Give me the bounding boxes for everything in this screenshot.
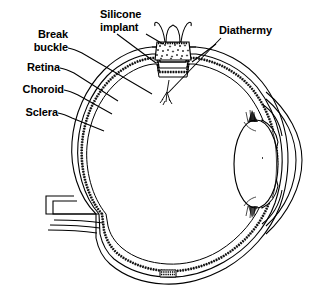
optic-nerve-lower-sheath [48, 230, 97, 233]
diathermy-burn-marks [160, 80, 172, 105]
label-diathermy: Diathermy [219, 24, 299, 37]
leader-break-buckle [68, 48, 152, 94]
label-silicone-implant: Silicone implant [100, 8, 170, 33]
leader-choroid [64, 90, 112, 114]
inferior-buckle-implant [160, 270, 176, 277]
label-choroid: Choroid [0, 83, 64, 96]
leader-silicone-implant [117, 34, 156, 63]
lens [234, 120, 278, 208]
ciliary-body-upper [248, 110, 258, 122]
optic-nerve-inner-upper [53, 201, 99, 214]
label-break-buckle: Break buckle [0, 28, 68, 53]
leader-sclera [58, 113, 104, 131]
eye-scleral-buckle-diagram: Break buckle Retina Choroid Sclera Silic… [0, 0, 310, 293]
optic-nerve-lower-inner [50, 225, 100, 228]
label-sclera: Sclera [0, 106, 58, 119]
ciliary-body-lower [248, 206, 258, 218]
leader-silicone-implant-2 [146, 34, 163, 44]
leader-retina [60, 68, 118, 101]
label-retina: Retina [0, 61, 60, 74]
inferior-scleral-buckle [160, 270, 176, 277]
